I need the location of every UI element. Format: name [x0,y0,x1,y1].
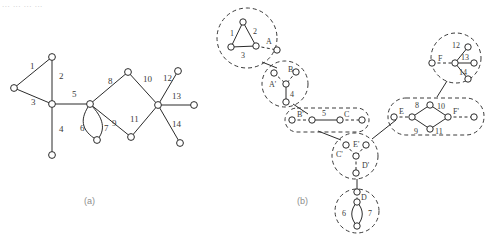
bag6-label-E: E [399,107,404,116]
node [465,44,471,50]
node [87,101,94,108]
bag2-label-Aprime: A' [269,80,277,89]
bag7-label-12: 12 [452,41,460,50]
node [155,102,162,109]
node [177,140,184,147]
figure-page: ... ... ... ... [0,0,497,245]
node [271,70,277,76]
bag2-label-4: 4 [290,90,294,99]
bag3-label-C: C [344,110,349,119]
bag2-label-B: B [288,65,293,74]
node [49,101,56,108]
node [293,69,299,75]
bag5-label-7: 7 [368,209,372,218]
edge-label-1: 1 [30,61,35,71]
bag7-label-13: 13 [461,53,469,62]
node [175,68,182,75]
node [49,54,56,61]
figure-a-nodes [11,54,198,159]
node [354,189,360,195]
node [359,117,365,123]
bag3-label-5: 5 [322,109,326,118]
node [353,170,359,176]
bag3-label-Bprime: B' [297,110,304,119]
node [391,114,397,120]
bag-1-labels: 1 2 3 A [230,27,272,60]
bag5-label-6: 6 [342,209,346,218]
node [283,99,289,105]
node [253,43,259,49]
edge-label-3: 3 [31,97,36,107]
node [337,117,343,123]
figure-a-edge-labels: 1 2 3 4 5 6 7 8 9 10 11 12 13 14 [30,61,182,134]
edge-label-9: 9 [112,118,117,128]
node [128,134,135,141]
edge-label-8: 8 [108,76,113,86]
edge-label-6: 6 [80,123,85,133]
node [49,152,56,159]
figure-b-group: 1 2 3 A A' B 4 [217,8,484,233]
bag1-label-1: 1 [230,29,234,38]
node [452,60,458,66]
edge-label-5: 5 [72,89,77,99]
node [191,102,198,109]
bag6-label-10: 10 [437,102,445,111]
bag7-label-14: 14 [459,68,467,77]
edge-label-14: 14 [172,119,182,129]
bag6-label-11: 11 [435,127,443,136]
node [354,223,360,229]
node [274,47,280,53]
caption-b: (b) [297,196,308,206]
bag1-edge-3 [231,46,256,47]
node [427,126,433,132]
edge-label-13: 13 [172,91,182,101]
caption-a: (a) [84,196,95,206]
edge-label-7: 7 [104,123,109,133]
node [289,117,295,123]
node [445,114,451,120]
bag6-label-Fprime: F' [453,107,459,116]
node [363,142,369,148]
node [240,19,246,25]
node [228,44,234,50]
node [409,114,415,120]
node [343,142,349,148]
bag-1-nodes [228,19,280,53]
edge-label-10: 10 [143,74,153,84]
bag1-label-3: 3 [241,51,245,60]
node [471,60,477,66]
node [429,60,435,66]
node [427,102,433,108]
node [94,137,101,144]
node [471,114,477,120]
bag4-label-Eprime: E' [353,140,360,149]
edge-label-11: 11 [130,114,139,124]
bag4-label-Dprime: D' [362,161,370,170]
node [353,153,359,159]
bag4-label-Cprime: C' [336,150,343,159]
edge-label-2: 2 [59,71,64,81]
bag1-label-A: A [266,37,272,46]
connector-bag6-bag7 [437,81,447,97]
node [11,85,18,92]
node [125,69,132,76]
bag6-label-9: 9 [414,127,418,136]
bag-5-nodes [354,189,360,229]
node [309,117,315,123]
edge-label-4: 4 [59,124,64,134]
edge-label-12: 12 [163,73,172,83]
bag5-label-D: D [361,193,367,202]
node [354,199,360,205]
figure-canvas: 1 2 3 4 5 6 7 8 9 10 11 12 13 14 [0,0,497,245]
bag7-label-F: F [438,54,443,63]
figure-a-group: 1 2 3 4 5 6 7 8 9 10 11 12 13 14 [11,54,198,159]
edge-9-line [90,104,131,137]
bag6-label-8: 8 [415,101,419,110]
bag1-label-2: 2 [253,27,257,36]
node [283,81,289,87]
